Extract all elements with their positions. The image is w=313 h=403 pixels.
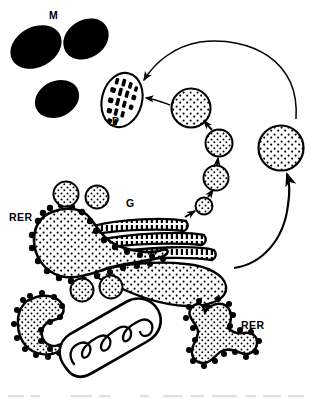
arrow-recycle-top xyxy=(144,41,296,119)
golgi-cisterna xyxy=(91,219,187,234)
melanosome xyxy=(56,10,117,68)
label-rer-right: RER xyxy=(241,320,264,331)
rer-left xyxy=(11,290,65,360)
melanosome xyxy=(3,17,69,78)
free-vesicle xyxy=(86,186,109,209)
label-rer-left: RER xyxy=(9,212,32,223)
figure-canvas: M P G RER RER xyxy=(0,0,313,403)
label-premelanosome: P xyxy=(112,116,119,127)
arrow-chain-3-2 xyxy=(217,158,218,166)
melanosome xyxy=(28,73,85,126)
free-vesicle xyxy=(100,276,123,299)
cell-diagram-svg xyxy=(0,0,313,403)
arrow-recycle-bottom xyxy=(234,174,289,268)
page-text-remnant xyxy=(0,390,313,403)
transport-vesicle xyxy=(204,166,229,191)
transport-vesicle-chain xyxy=(172,89,233,215)
label-golgi: G xyxy=(126,198,135,209)
rer-right xyxy=(183,296,262,369)
melanosome-group xyxy=(3,10,117,125)
transport-vesicle xyxy=(196,198,213,215)
mitochondrion xyxy=(60,299,161,377)
premelanosome-membrane xyxy=(96,68,149,131)
premelanosome xyxy=(96,68,149,131)
transport-vesicle xyxy=(206,130,233,157)
free-vesicle xyxy=(71,279,94,302)
rer-left-membrane xyxy=(18,296,64,355)
recycling-vesicle xyxy=(259,126,304,171)
label-melanosome: M xyxy=(49,10,58,21)
arrow-chain-2-1 xyxy=(208,190,213,197)
arrow-golgi-to-chain xyxy=(185,211,195,217)
arrow-chain-4-3 xyxy=(204,121,212,130)
free-vesicle xyxy=(54,182,79,207)
arrow-vesicle-to-p xyxy=(146,98,170,105)
